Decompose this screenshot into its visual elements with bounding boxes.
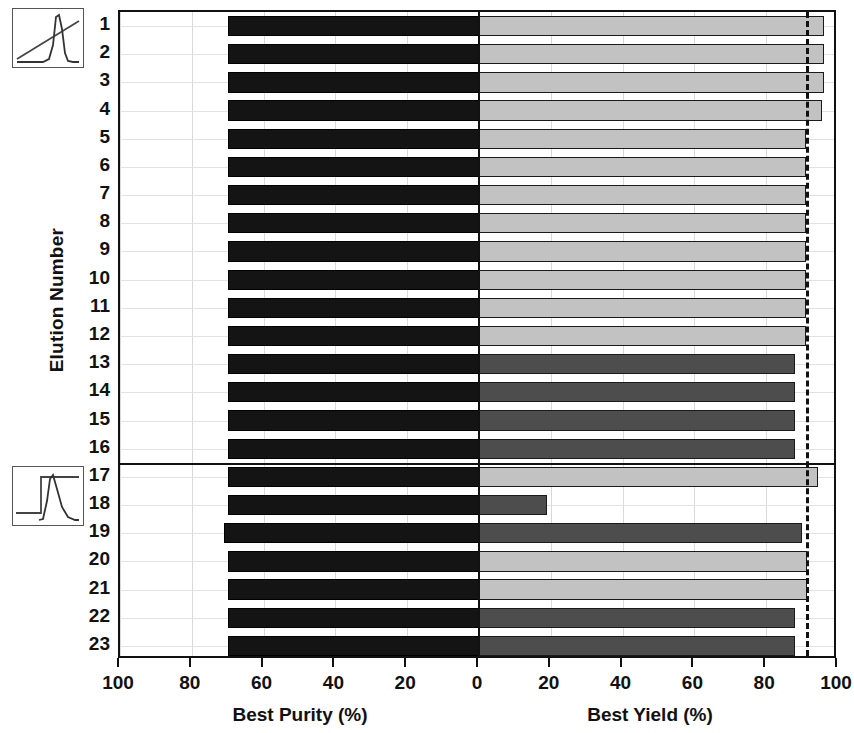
bar-purity-3	[228, 72, 479, 92]
bar-purity-21	[228, 579, 479, 599]
plot-area	[118, 10, 836, 658]
x-tick-label-purity-60: 60	[232, 672, 292, 694]
bar-purity-14	[228, 382, 479, 402]
bar-yield-3	[479, 72, 824, 92]
bar-purity-17	[228, 467, 479, 487]
bar-purity-10	[228, 270, 479, 290]
gridline-vertical	[192, 12, 193, 656]
x-tick-label-purity-20: 20	[375, 672, 435, 694]
bar-yield-5	[479, 129, 806, 149]
group-separator-line	[120, 463, 834, 465]
x-tick-mark	[620, 658, 622, 667]
x-axis-title-left: Best Purity (%)	[170, 704, 430, 726]
step-gradient-chromatogram-icon	[13, 467, 83, 525]
zero-axis-line	[478, 12, 480, 656]
x-tick-label-yield-0: 0	[447, 672, 507, 694]
gridline-vertical	[120, 12, 121, 656]
bar-yield-22	[479, 608, 795, 628]
bar-yield-19	[479, 523, 802, 543]
linear-gradient-chromatogram-icon	[13, 9, 83, 67]
x-tick-label-yield-40: 40	[591, 672, 651, 694]
bar-yield-14	[479, 382, 795, 402]
bar-yield-1	[479, 16, 824, 36]
bar-purity-8	[228, 213, 479, 233]
bar-yield-12	[479, 326, 806, 346]
bar-purity-19	[224, 523, 479, 543]
bar-yield-21	[479, 579, 807, 599]
x-tick-mark	[117, 658, 119, 667]
bar-purity-7	[228, 185, 479, 205]
bar-yield-13	[479, 354, 795, 374]
y-tick-label-20: 20	[70, 549, 110, 568]
x-tick-mark	[189, 658, 191, 667]
bar-purity-6	[228, 157, 479, 177]
y-tick-label-7: 7	[70, 183, 110, 202]
y-tick-label-11: 11	[70, 296, 110, 315]
x-tick-mark	[476, 658, 478, 667]
y-tick-label-14: 14	[70, 380, 110, 399]
y-tick-label-21: 21	[70, 578, 110, 597]
y-tick-label-3: 3	[70, 70, 110, 89]
bar-purity-23	[228, 636, 479, 656]
y-tick-label-13: 13	[70, 352, 110, 371]
bar-yield-20	[479, 551, 807, 571]
bar-yield-9	[479, 241, 806, 261]
x-tick-label-purity-40: 40	[303, 672, 363, 694]
y-tick-label-16: 16	[70, 437, 110, 456]
bar-yield-17	[479, 467, 818, 487]
y-tick-label-4: 4	[70, 99, 110, 118]
y-tick-label-8: 8	[70, 211, 110, 230]
x-tick-mark	[261, 658, 263, 667]
bar-yield-6	[479, 157, 806, 177]
bar-purity-9	[228, 241, 479, 261]
y-axis-title: Elution Number	[46, 228, 70, 372]
bar-purity-20	[228, 551, 479, 571]
bar-purity-11	[228, 298, 479, 318]
y-tick-label-5: 5	[70, 127, 110, 146]
bar-purity-15	[228, 410, 479, 430]
bar-purity-4	[228, 100, 479, 120]
x-tick-label-yield-80: 80	[734, 672, 794, 694]
bar-yield-10	[479, 270, 806, 290]
x-tick-mark	[691, 658, 693, 667]
x-tick-mark	[835, 658, 837, 667]
inset-linear-gradient-chromatogram	[12, 8, 84, 68]
y-tick-label-6: 6	[70, 155, 110, 174]
bar-yield-15	[479, 410, 795, 430]
bar-purity-5	[228, 129, 479, 149]
bar-yield-16	[479, 439, 795, 459]
x-tick-mark	[332, 658, 334, 667]
x-tick-label-purity-80: 80	[160, 672, 220, 694]
y-tick-label-22: 22	[70, 606, 110, 625]
y-tick-label-12: 12	[70, 324, 110, 343]
yield-threshold-line	[806, 12, 809, 656]
x-tick-label-yield-20: 20	[519, 672, 579, 694]
y-tick-label-23: 23	[70, 634, 110, 653]
bar-purity-22	[228, 608, 479, 628]
x-tick-label-purity-100: 100	[88, 672, 148, 694]
y-tick-label-10: 10	[70, 268, 110, 287]
y-tick-label-15: 15	[70, 409, 110, 428]
x-tick-mark	[763, 658, 765, 667]
x-tick-mark	[548, 658, 550, 667]
inset-step-gradient-chromatogram	[12, 466, 84, 526]
chart-canvas: Elution Number 1234567891011121314151617…	[0, 0, 854, 733]
x-tick-label-yield-60: 60	[662, 672, 722, 694]
x-tick-mark	[404, 658, 406, 667]
bar-yield-23	[479, 636, 795, 656]
bar-purity-1	[228, 16, 479, 36]
bar-yield-7	[479, 185, 806, 205]
bar-purity-13	[228, 354, 479, 374]
bar-yield-11	[479, 298, 806, 318]
y-tick-label-9: 9	[70, 239, 110, 258]
bar-purity-18	[228, 495, 479, 515]
bar-yield-4	[479, 100, 822, 120]
bar-yield-2	[479, 44, 824, 64]
bar-purity-2	[228, 44, 479, 64]
bar-yield-18	[479, 495, 547, 515]
bar-purity-16	[228, 439, 479, 459]
bar-yield-8	[479, 213, 806, 233]
bar-purity-12	[228, 326, 479, 346]
x-axis-title-right: Best Yield (%)	[520, 704, 780, 726]
x-tick-label-yield-100: 100	[806, 672, 854, 694]
